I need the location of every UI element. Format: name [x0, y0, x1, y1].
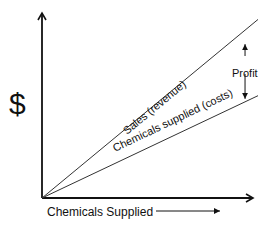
y-axis-label: $ [9, 87, 26, 120]
profit-diagram: $ Chemicals Supplied Sales (revenue) Che… [0, 0, 271, 226]
profit-label: Profit [232, 67, 258, 79]
x-axis-label: Chemicals Supplied [47, 205, 153, 219]
